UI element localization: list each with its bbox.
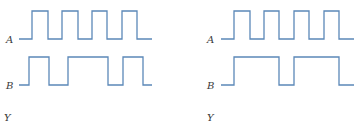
left-signal-b-waveform	[19, 57, 152, 85]
left-output-y-label: Y	[4, 113, 11, 123]
left-signal-a-waveform	[19, 11, 152, 39]
left-signal-a-label: A	[6, 35, 13, 45]
right-signal-b-label: B	[207, 81, 214, 91]
right-output-y-label: Y	[207, 113, 214, 123]
timing-diagrams	[0, 0, 359, 132]
right-signal-a-label: A	[207, 35, 214, 45]
right-signal-b-waveform	[221, 57, 354, 85]
left-signal-b-label: B	[6, 81, 13, 91]
right-signal-a-waveform	[221, 11, 354, 39]
